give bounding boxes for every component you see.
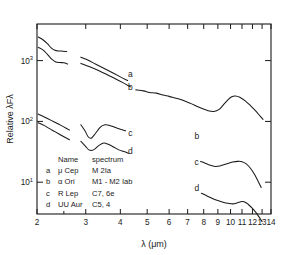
legend-name-b: α Ori <box>58 177 75 186</box>
legend-header-spectrum: spectrum <box>92 155 123 164</box>
curve-label-b: b <box>194 131 199 141</box>
spectrum-curve-b <box>136 90 263 119</box>
legend-spectrum-d: C5, 4 <box>92 200 110 209</box>
x-tick-label: 6 <box>167 218 172 227</box>
figure-spectra-plot: 234567891011121314103102101λ (μm)Relativ… <box>0 0 282 255</box>
legend-header-name: Name <box>58 155 78 164</box>
x-axis-title: λ (μm) <box>141 239 167 249</box>
curve-label-b: b <box>128 82 133 92</box>
y-tick-label: 101 <box>21 177 33 188</box>
x-tick-label: 2 <box>35 218 40 227</box>
x-tick-label: 7 <box>185 218 190 227</box>
spectrum-curve-a <box>81 57 128 80</box>
legend-key-b: b <box>46 177 50 186</box>
curve-label-a: a <box>128 69 133 79</box>
spectrum-curve-b <box>81 63 131 86</box>
x-tick-label: 9 <box>216 218 221 227</box>
y-tick-label: 102 <box>21 116 33 127</box>
x-tick-label: 3 <box>83 218 88 227</box>
legend-spectrum-a: M 2Ia <box>92 166 112 175</box>
legend-key-a: a <box>46 166 51 175</box>
x-tick-label: 4 <box>118 218 123 227</box>
curve-label-c: c <box>195 157 200 167</box>
spectrum-curve-b <box>38 47 67 64</box>
legend-name-c: R Lep <box>58 189 78 198</box>
x-tick-label: 11 <box>238 218 247 227</box>
legend-key-c: c <box>46 189 50 198</box>
x-tick-label: 12 <box>248 218 258 227</box>
curve-label-c: c <box>128 128 133 138</box>
spectrum-curve-d <box>38 123 69 140</box>
legend-spectrum-c: C7, 6e <box>92 189 114 198</box>
spectra-svg: 234567891011121314103102101λ (μm)Relativ… <box>0 0 282 255</box>
legend-key-d: d <box>46 200 50 209</box>
legend-name-d: UU Aur <box>58 200 83 209</box>
spectrum-curve-c <box>81 125 126 139</box>
x-tick-label: 5 <box>145 218 150 227</box>
spectrum-curve-c <box>38 114 69 130</box>
legend-name-a: μ Cep <box>58 166 78 175</box>
spectrum-curve-c <box>201 161 262 187</box>
legend-spectrum-b: M1 - M2 Iab <box>92 177 133 186</box>
x-tick-label: 8 <box>201 218 206 227</box>
x-tick-label: 14 <box>266 218 276 227</box>
x-tick-label: 10 <box>226 218 236 227</box>
curve-label-d: d <box>128 146 133 156</box>
y-tick-label: 103 <box>21 55 33 66</box>
spectrum-curve-d <box>81 141 129 153</box>
y-axis-title: Relative λFλ <box>5 94 15 144</box>
curve-label-d: d <box>194 183 199 193</box>
